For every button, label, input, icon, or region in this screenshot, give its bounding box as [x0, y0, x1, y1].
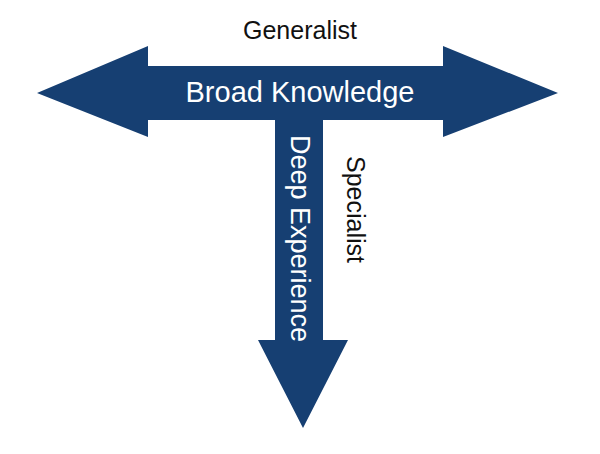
generalist-label: Generalist: [0, 16, 600, 45]
specialist-label: Specialist: [341, 156, 370, 263]
broad-knowledge-label: Broad Knowledge: [150, 76, 450, 109]
deep-experience-label: Deep Experience: [284, 135, 315, 342]
